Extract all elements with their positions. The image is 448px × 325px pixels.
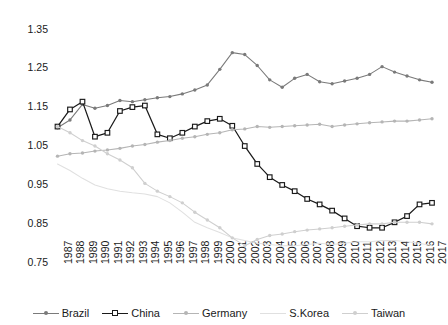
data-point bbox=[180, 131, 185, 136]
data-point bbox=[343, 123, 346, 126]
data-point bbox=[118, 109, 123, 114]
data-point bbox=[368, 73, 371, 76]
data-point bbox=[305, 73, 308, 76]
data-point bbox=[343, 79, 346, 82]
data-point bbox=[293, 124, 296, 127]
data-point bbox=[230, 123, 235, 128]
legend-label: Brazil bbox=[62, 307, 90, 319]
data-point bbox=[430, 117, 433, 120]
data-point bbox=[393, 221, 396, 224]
data-point bbox=[143, 143, 146, 146]
data-point bbox=[380, 65, 383, 68]
chart-legend: BrazilChinaGermanyS.KoreaTaiwan bbox=[0, 303, 438, 323]
data-point bbox=[168, 95, 171, 98]
data-point bbox=[256, 64, 259, 67]
data-point bbox=[317, 202, 322, 207]
legend-marker bbox=[112, 310, 118, 316]
data-point bbox=[181, 92, 184, 95]
data-point bbox=[430, 222, 433, 225]
data-point bbox=[256, 238, 259, 241]
data-point bbox=[131, 100, 134, 103]
data-point bbox=[106, 148, 109, 151]
data-point bbox=[106, 104, 109, 107]
data-point bbox=[56, 125, 59, 128]
data-point bbox=[93, 149, 96, 152]
data-point bbox=[80, 99, 85, 104]
legend-swatch-icon bbox=[102, 308, 128, 319]
data-point bbox=[305, 123, 308, 126]
legend-swatch-icon bbox=[342, 308, 368, 319]
data-point bbox=[217, 116, 222, 121]
data-point bbox=[118, 147, 121, 150]
legend-marker bbox=[353, 311, 357, 315]
data-point bbox=[218, 131, 221, 134]
data-point bbox=[330, 208, 335, 213]
data-point bbox=[405, 119, 408, 122]
data-point bbox=[293, 77, 296, 80]
data-point bbox=[81, 139, 84, 142]
data-point bbox=[318, 80, 321, 83]
data-point bbox=[342, 216, 347, 221]
data-point bbox=[343, 225, 346, 228]
data-point bbox=[418, 221, 421, 224]
data-point bbox=[181, 137, 184, 140]
series-brazil bbox=[56, 51, 434, 130]
series-s-korea bbox=[58, 164, 433, 246]
legend-label: Germany bbox=[202, 307, 247, 319]
data-point bbox=[256, 125, 259, 128]
data-point bbox=[355, 122, 358, 125]
data-point bbox=[405, 221, 408, 224]
legend-label: China bbox=[131, 307, 160, 319]
data-point bbox=[93, 107, 96, 110]
data-point bbox=[181, 201, 184, 204]
data-point bbox=[255, 162, 260, 167]
data-point bbox=[143, 98, 146, 101]
data-point bbox=[205, 119, 210, 124]
legend-item-germany[interactable]: Germany bbox=[173, 307, 247, 319]
series-china bbox=[55, 99, 434, 230]
data-point bbox=[268, 126, 271, 129]
data-point bbox=[243, 127, 246, 130]
data-point bbox=[156, 189, 159, 192]
data-point bbox=[131, 166, 134, 169]
data-point bbox=[193, 88, 196, 91]
series-line bbox=[58, 102, 433, 228]
legend-item-s-korea[interactable]: S.Korea bbox=[260, 307, 329, 319]
data-point bbox=[231, 128, 234, 131]
data-point bbox=[155, 132, 160, 137]
series-line bbox=[58, 164, 433, 246]
data-point bbox=[93, 134, 98, 139]
data-point bbox=[318, 227, 321, 230]
data-point bbox=[193, 124, 198, 129]
legend-item-brazil[interactable]: Brazil bbox=[33, 307, 90, 319]
data-point bbox=[305, 228, 308, 231]
data-point bbox=[156, 140, 159, 143]
legend-item-china[interactable]: China bbox=[102, 307, 160, 319]
data-point bbox=[193, 135, 196, 138]
data-point bbox=[281, 125, 284, 128]
data-point bbox=[206, 218, 209, 221]
legend-item-taiwan[interactable]: Taiwan bbox=[342, 307, 405, 319]
data-point bbox=[68, 118, 71, 121]
data-point bbox=[231, 51, 234, 54]
data-point bbox=[168, 195, 171, 198]
data-point bbox=[218, 68, 221, 71]
data-point bbox=[206, 83, 209, 86]
data-point bbox=[131, 144, 134, 147]
data-point bbox=[93, 144, 96, 147]
data-point bbox=[106, 152, 109, 155]
data-point bbox=[118, 158, 121, 161]
data-point bbox=[393, 70, 396, 73]
data-point bbox=[267, 175, 272, 180]
data-point bbox=[68, 131, 71, 134]
data-point bbox=[405, 74, 408, 77]
legend-swatch-icon bbox=[260, 308, 286, 319]
data-point bbox=[368, 121, 371, 124]
data-point bbox=[405, 214, 410, 219]
data-point bbox=[430, 81, 433, 84]
data-point bbox=[68, 152, 71, 155]
data-point bbox=[281, 86, 284, 89]
data-point bbox=[318, 123, 321, 126]
data-point bbox=[242, 144, 247, 149]
